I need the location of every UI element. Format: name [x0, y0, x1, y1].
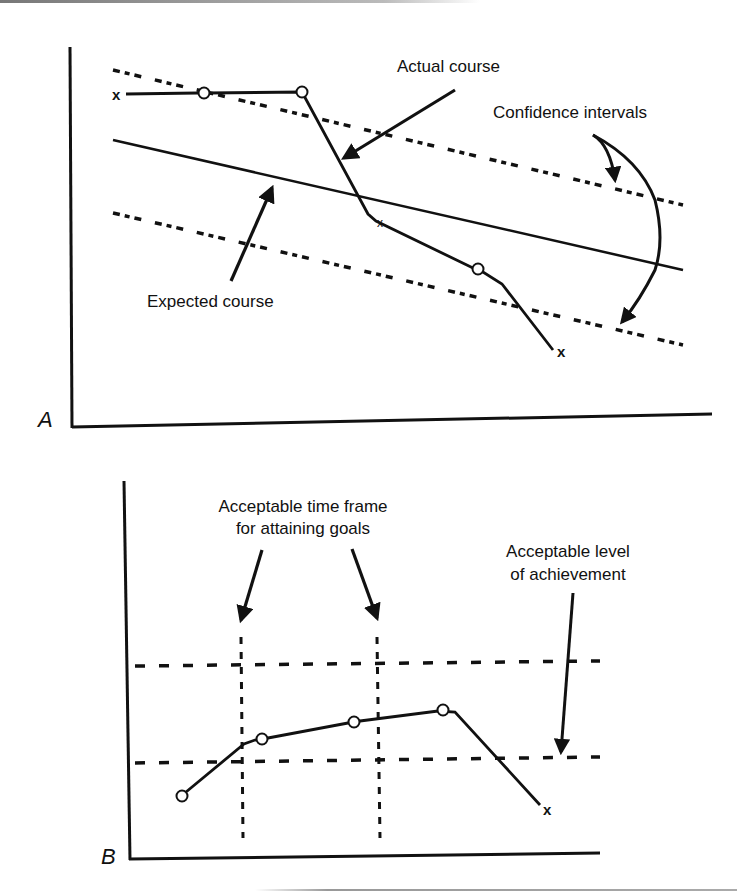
time-frame-end-line	[377, 637, 380, 838]
actual-course-label: Actual course	[397, 57, 500, 76]
data-point-circle	[257, 734, 268, 745]
lower-acceptable-level-line	[135, 757, 600, 763]
panel-b-course-line	[186, 711, 540, 805]
expected-course-label: Expected course	[147, 292, 274, 311]
time-frame-label-line2: for attaining goals	[236, 519, 370, 538]
panel-b-letter: B	[101, 844, 116, 869]
data-point-circle	[199, 88, 210, 99]
figure-canvas: A x x x Actual course Confidence interva…	[0, 0, 737, 895]
expected-course-line	[113, 140, 683, 270]
panel-a: A x x x Actual course Confidence interva…	[36, 47, 712, 432]
data-point-circle	[349, 717, 360, 728]
x-marker-end: x	[557, 343, 566, 360]
time-frame-end-arrow	[352, 549, 377, 618]
data-point-circle	[473, 264, 484, 275]
x-marker-mid: x	[377, 216, 383, 230]
panel-b: B x Acceptable time frame for attaining …	[101, 481, 630, 869]
expected-course-arrow	[231, 188, 272, 281]
x-marker-start: x	[112, 86, 121, 103]
acceptable-level-label-line2: of achievement	[510, 565, 626, 584]
confidence-intervals-label: Confidence intervals	[493, 103, 647, 122]
actual-course-line	[126, 92, 553, 350]
upper-acceptable-level-line	[135, 661, 600, 666]
confidence-curved-arrow	[593, 135, 660, 322]
actual-course-arrow	[344, 90, 455, 158]
acceptable-level-label-line1: Acceptable level	[506, 542, 630, 561]
data-point-circle	[177, 791, 188, 802]
data-point-circle	[297, 87, 308, 98]
x-marker-end: x	[543, 801, 552, 818]
time-frame-start-line	[241, 637, 243, 838]
time-frame-start-arrow	[241, 550, 262, 620]
time-frame-label-line1: Acceptable time frame	[218, 497, 387, 516]
panel-a-letter: A	[36, 407, 53, 432]
data-point-circle	[438, 705, 449, 716]
acceptable-level-arrow	[561, 593, 573, 752]
